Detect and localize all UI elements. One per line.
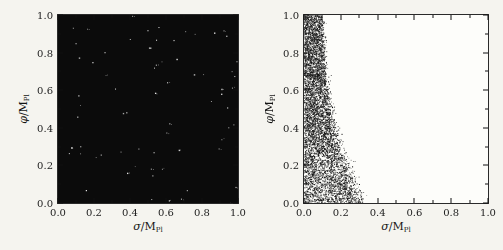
x-tick-mark	[112, 15, 113, 18]
x-tick-mark	[238, 15, 239, 20]
y-tick-mark	[235, 71, 238, 72]
y-tick-label: 0.6	[283, 85, 299, 96]
y-tick-label: 0.0	[37, 198, 53, 209]
y-tick-mark	[58, 71, 61, 72]
x-tick-mark	[359, 15, 360, 18]
y-tick-mark	[235, 146, 238, 147]
sigma-symbol: σ	[133, 220, 141, 233]
x-tick-mark	[238, 198, 239, 203]
right-x-axis-label: σ/MPl	[381, 220, 410, 234]
phi-symbol: φ	[263, 116, 276, 124]
y-tick-label: 0.2	[283, 160, 299, 171]
y-tick-mark	[485, 184, 488, 185]
y-tick-mark	[304, 71, 307, 72]
x-tick-mark	[130, 15, 131, 20]
x-tick-label: 1.0	[230, 207, 246, 218]
x-tick-mark	[469, 15, 470, 18]
phi-symbol: φ	[17, 116, 30, 124]
right-scatter-canvas	[304, 15, 488, 203]
x-tick-mark	[202, 198, 203, 203]
y-tick-mark	[483, 165, 488, 166]
right-plot-area: σ/MPl φ/MPl 0.00.20.40.60.81.00.00.20.40…	[303, 14, 489, 204]
x-tick-mark	[304, 15, 305, 20]
y-tick-mark	[483, 127, 488, 128]
left-plot-area: σ/MPl φ/MPl 0.00.20.40.60.81.00.00.20.40…	[57, 14, 239, 204]
y-tick-mark	[233, 52, 238, 53]
x-tick-mark	[359, 200, 360, 203]
x-tick-mark	[76, 200, 77, 203]
x-tick-label: 0.2	[333, 207, 349, 218]
x-tick-mark	[94, 198, 95, 203]
x-tick-mark	[76, 15, 77, 18]
y-tick-mark	[485, 33, 488, 34]
y-tick-mark	[58, 146, 61, 147]
y-tick-mark	[304, 52, 309, 53]
y-tick-mark	[58, 127, 63, 128]
x-tick-mark	[148, 200, 149, 203]
y-tick-mark	[304, 127, 309, 128]
y-tick-mark	[58, 165, 63, 166]
x-axis-label-rest: /M	[141, 220, 156, 233]
x-tick-mark	[488, 15, 489, 20]
left-x-axis-label: σ/MPl	[133, 220, 162, 234]
x-tick-mark	[488, 198, 489, 203]
y-axis-label-rest: /M	[17, 101, 30, 116]
y-axis-label-rest: /M	[263, 101, 276, 116]
y-tick-mark	[304, 203, 309, 204]
x-tick-mark	[130, 198, 131, 203]
y-tick-mark	[304, 146, 307, 147]
x-tick-mark	[377, 15, 378, 20]
x-tick-label: 1.0	[480, 207, 496, 218]
y-tick-mark	[58, 15, 63, 16]
y-tick-mark	[483, 15, 488, 16]
x-tick-mark	[58, 15, 59, 20]
x-axis-label-rest: /M	[389, 220, 404, 233]
y-tick-mark	[483, 52, 488, 53]
y-tick-mark	[304, 33, 307, 34]
x-tick-mark	[414, 15, 415, 20]
x-tick-label: 0.4	[122, 207, 138, 218]
y-axis-label-subscript: Pl	[269, 94, 277, 101]
x-axis-label-subscript: Pl	[404, 226, 411, 234]
y-tick-mark	[233, 127, 238, 128]
x-tick-mark	[112, 200, 113, 203]
y-tick-mark	[304, 90, 309, 91]
y-tick-mark	[235, 33, 238, 34]
y-tick-label: 1.0	[283, 10, 299, 21]
x-tick-mark	[414, 198, 415, 203]
y-tick-mark	[58, 90, 63, 91]
x-tick-label: 0.8	[443, 207, 459, 218]
y-tick-label: 0.8	[37, 47, 53, 58]
x-tick-mark	[451, 15, 452, 20]
y-tick-label: 1.0	[37, 10, 53, 21]
x-tick-mark	[166, 198, 167, 203]
y-tick-mark	[235, 109, 238, 110]
y-tick-label: 0.2	[37, 160, 53, 171]
x-tick-mark	[220, 15, 221, 18]
x-tick-mark	[396, 200, 397, 203]
x-tick-mark	[166, 15, 167, 20]
x-tick-mark	[432, 200, 433, 203]
right-y-axis-label: φ/MPl	[263, 94, 277, 124]
x-tick-mark	[184, 200, 185, 203]
y-tick-label: 0.4	[37, 122, 53, 133]
x-tick-mark	[451, 198, 452, 203]
x-tick-mark	[94, 15, 95, 20]
y-tick-mark	[485, 109, 488, 110]
left-scatter-canvas	[58, 15, 238, 203]
y-tick-mark	[58, 184, 61, 185]
x-tick-mark	[340, 15, 341, 20]
y-tick-mark	[304, 109, 307, 110]
left-y-axis-label: φ/MPl	[17, 94, 31, 124]
y-tick-mark	[485, 146, 488, 147]
y-tick-mark	[483, 90, 488, 91]
y-tick-label: 0.4	[283, 122, 299, 133]
x-tick-label: 0.6	[158, 207, 174, 218]
y-tick-mark	[58, 109, 61, 110]
x-tick-mark	[432, 15, 433, 18]
x-tick-mark	[220, 200, 221, 203]
x-tick-mark	[377, 198, 378, 203]
y-axis-label-subscript: Pl	[23, 94, 31, 101]
y-tick-label: 0.6	[37, 85, 53, 96]
y-tick-mark	[304, 165, 309, 166]
